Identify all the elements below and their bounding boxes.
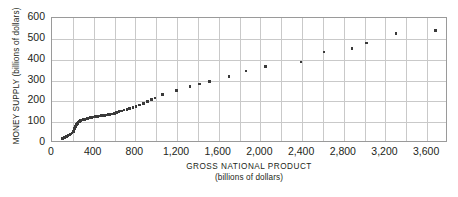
x-tick-label: 3,600: [396, 145, 456, 157]
y-tick-label: 200: [5, 94, 45, 105]
data-point: [198, 83, 201, 86]
data-point: [132, 106, 135, 109]
x-axis-label-units: (billions of dollars): [51, 172, 447, 183]
x-axis-label: GROSS NATIONAL PRODUCT (billions of doll…: [51, 161, 447, 183]
gridline-horizontal: [52, 101, 446, 102]
y-tick-label: 100: [5, 115, 45, 126]
data-point: [323, 51, 326, 54]
y-tick-label: 400: [5, 53, 45, 64]
data-point: [154, 97, 157, 100]
data-point: [208, 80, 211, 83]
plot-area: [51, 17, 447, 142]
x-axis-tick-labels: 04008001,2001,6002,0002,4002,8003,2003,6…: [0, 143, 458, 159]
gridline-horizontal: [52, 81, 446, 82]
gridline-horizontal: [52, 39, 446, 40]
data-point: [189, 85, 192, 88]
x-axis-label-main: GROSS NATIONAL PRODUCT: [51, 161, 447, 172]
data-point: [434, 29, 437, 32]
data-point: [138, 104, 141, 107]
y-tick-label: 600: [5, 11, 45, 22]
y-tick-label: 500: [5, 32, 45, 43]
y-tick-label: 300: [5, 74, 45, 85]
data-point: [175, 89, 178, 92]
data-point: [264, 65, 267, 68]
data-point: [245, 70, 248, 73]
data-point: [395, 32, 398, 35]
scatter-chart-figure: MONEY SUPPLY (billions of dollars) 01002…: [0, 0, 458, 197]
data-point: [146, 100, 149, 103]
gridline-horizontal: [52, 122, 446, 123]
data-point: [142, 102, 145, 105]
data-point: [150, 98, 153, 101]
y-axis-tick-labels: 0100200300400500600: [0, 0, 50, 197]
data-point: [365, 42, 368, 45]
data-point: [161, 93, 164, 96]
gridline-horizontal: [52, 60, 446, 61]
data-point: [300, 61, 303, 64]
data-point: [135, 105, 138, 108]
data-point: [351, 47, 354, 50]
data-point: [228, 75, 231, 78]
